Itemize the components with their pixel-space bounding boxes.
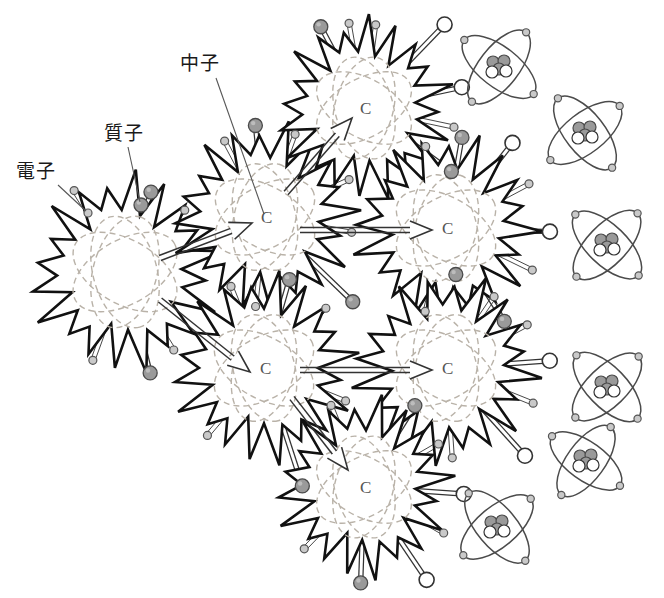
proton-particle: [408, 399, 422, 413]
atom-neutron: [594, 386, 606, 398]
electron-particle: [345, 176, 353, 184]
electron-particle: [203, 431, 211, 439]
electron-particle: [523, 321, 531, 329]
atom-symbol: [561, 199, 652, 290]
atom-neutron: [572, 132, 584, 144]
proton-particle: [144, 185, 158, 199]
label-proton: 質子: [104, 124, 143, 143]
atom-electron: [635, 353, 642, 360]
electron-particle: [448, 454, 456, 462]
atom-symbol: [538, 86, 632, 180]
atom-electron: [461, 36, 468, 43]
atom-symbol: [561, 341, 652, 432]
electron-particle: [490, 293, 498, 301]
atom-symbol: [541, 416, 631, 506]
label-electron: 電子: [16, 162, 55, 181]
chain-reaction-illustration: CCCCCC: [0, 0, 664, 598]
diagram-canvas: CCCCCC 電子質子中子: [0, 0, 664, 598]
electron-particle: [252, 303, 260, 311]
burst-center-glyph: C: [360, 99, 371, 118]
atom-electron: [608, 164, 615, 171]
burst-center-glyph: C: [442, 359, 453, 378]
electron-particle: [422, 142, 430, 150]
electron-particle: [529, 399, 537, 407]
proton-particle: [143, 366, 157, 380]
electron-particle: [450, 123, 458, 131]
proton-particle: [314, 20, 328, 34]
proton-particle: [282, 273, 296, 287]
atom-electron: [573, 352, 580, 359]
electron-particle: [440, 529, 448, 537]
atom-electron: [635, 272, 642, 279]
burst-center-glyph: C: [260, 359, 271, 378]
atom-electron: [468, 98, 475, 105]
neutron-particle: [542, 353, 557, 368]
electron-particle: [528, 266, 536, 274]
proton-particle: [295, 479, 309, 493]
atom-electron: [548, 433, 555, 440]
proton-particle: [346, 295, 360, 309]
neutron-particle: [437, 17, 452, 32]
atom-electron: [616, 482, 623, 489]
electron-particle: [227, 282, 235, 290]
atom-electron: [572, 211, 579, 218]
atom-electron: [607, 423, 614, 430]
electron-particle: [421, 307, 429, 315]
proton-particle: [497, 314, 511, 328]
proton-particle: [444, 164, 458, 178]
atom-neutron: [484, 526, 496, 538]
atom-electron: [634, 415, 641, 422]
atom-symbol: [452, 20, 546, 114]
atom-neutron: [486, 66, 498, 78]
atom-electron: [522, 557, 529, 564]
atom-neutron: [573, 460, 585, 472]
electron-particle: [181, 206, 189, 214]
electron-particle: [434, 440, 442, 448]
atom-neutron: [500, 65, 512, 77]
proton-particle: [134, 198, 148, 212]
neutron-particle: [505, 135, 520, 150]
atom-neutron: [498, 525, 510, 537]
atom-neutron: [608, 243, 620, 255]
electron-particle: [327, 401, 335, 409]
electron-particle: [89, 356, 97, 364]
proton-particle: [248, 119, 262, 133]
electron-particle: [70, 187, 78, 195]
label-neutron: 中子: [180, 54, 219, 73]
atom-electron: [558, 491, 565, 498]
atom-neutron: [594, 244, 606, 256]
atom-electron: [547, 156, 554, 163]
atom-neutron: [608, 385, 620, 397]
electron-particle: [342, 397, 350, 405]
neutron-particle: [542, 224, 557, 239]
atom-electron: [616, 102, 623, 109]
electron-particle: [372, 21, 380, 29]
electron-particle: [300, 545, 308, 553]
burst-center-glyph: C: [360, 478, 371, 497]
atom-electron: [522, 29, 529, 36]
electron-particle: [345, 19, 353, 27]
atom-electron: [573, 273, 580, 280]
atom-neutron: [586, 131, 598, 143]
electron-particle: [291, 130, 299, 138]
atom-electron: [554, 95, 561, 102]
electron-particle: [221, 137, 229, 145]
proton-particle: [354, 576, 368, 590]
proton-particle: [455, 130, 469, 144]
electron-particle: [170, 346, 178, 354]
electron-particle: [525, 180, 533, 188]
neutron-particle: [517, 448, 532, 463]
electron-particle: [322, 304, 330, 312]
atom-electron: [634, 210, 641, 217]
atom-electron: [527, 495, 534, 502]
atom-electron: [460, 552, 467, 559]
proton-particle: [449, 268, 463, 282]
atom-electron: [465, 490, 472, 497]
neutron-particle: [419, 572, 434, 587]
atom-electron: [572, 414, 579, 421]
atom-electron: [530, 90, 537, 97]
atom-neutron: [587, 459, 599, 471]
burst-center-glyph: C: [442, 219, 453, 238]
